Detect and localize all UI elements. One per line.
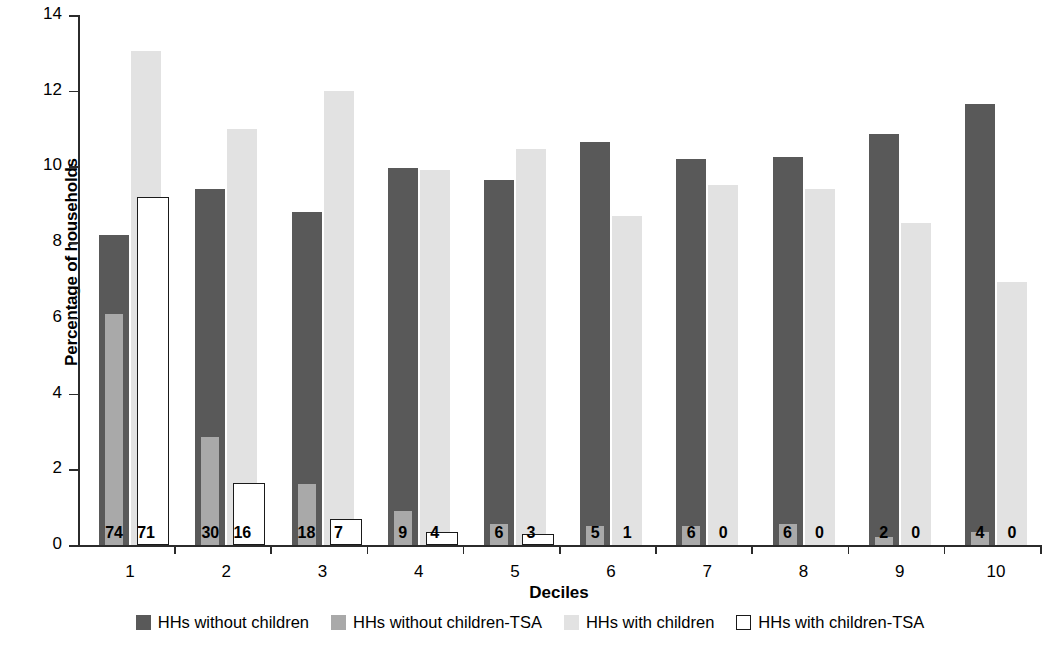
x-tick	[655, 545, 657, 554]
legend-label: HHs with children-TSA	[758, 613, 924, 632]
x-tick	[1040, 545, 1042, 554]
legend-label: HHs with children	[586, 613, 714, 632]
x-tick-label: 5	[485, 562, 545, 582]
bar-value-label-with-children-tsa: 0	[1003, 525, 1021, 541]
x-tick-label: 1	[100, 562, 160, 582]
bar-value-label-without-children-tsa: 6	[682, 525, 700, 541]
legend-swatch-icon	[564, 615, 579, 630]
bar-hhs-without-children	[580, 142, 610, 545]
bar-value-label-without-children-tsa: 30	[201, 525, 219, 541]
y-tick-label: 10	[43, 155, 62, 175]
bar-value-label-with-children-tsa: 1	[618, 525, 636, 541]
bar-hhs-without-children	[388, 168, 418, 545]
y-tick-label: 2	[53, 458, 62, 478]
bar-hhs-with-children	[805, 189, 835, 545]
y-tick-label: 6	[53, 307, 62, 327]
x-tick-label: 2	[196, 562, 256, 582]
x-tick	[174, 545, 176, 554]
plot-area: 02468101214 12345678910 7471301618794635…	[78, 15, 1040, 545]
bar-value-label-without-children-tsa: 2	[875, 525, 893, 541]
y-tick: 8	[69, 242, 78, 244]
chart-page: Percentage of households 02468101214 123…	[0, 0, 1060, 649]
bar-hhs-with-children	[324, 91, 354, 545]
bar-value-label-with-children-tsa: 3	[522, 525, 540, 541]
legend-swatch-icon	[331, 615, 346, 630]
bar-value-label-without-children-tsa: 6	[779, 525, 797, 541]
bar-hhs-without-children	[676, 159, 706, 545]
legend-item[interactable]: HHs without children	[136, 613, 309, 632]
y-tick: 2	[69, 469, 78, 471]
bar-value-label-without-children-tsa: 9	[394, 525, 412, 541]
y-tick-label: 0	[53, 534, 62, 554]
bar-value-label-with-children-tsa: 0	[811, 525, 829, 541]
y-tick: 10	[69, 166, 78, 168]
legend-item[interactable]: HHs with children	[564, 613, 714, 632]
x-tick-label: 7	[677, 562, 737, 582]
x-tick	[270, 545, 272, 554]
bar-hhs-with-children	[901, 223, 931, 545]
y-tick: 4	[69, 394, 78, 396]
bar-value-label-with-children-tsa: 7	[330, 525, 348, 541]
x-tick	[367, 545, 369, 554]
bar-value-label-with-children-tsa: 71	[137, 525, 155, 541]
bar-hhs-without-children	[773, 157, 803, 545]
legend-label: HHs without children	[158, 613, 309, 632]
y-tick-label: 14	[43, 4, 62, 24]
bar-hhs-with-children	[708, 185, 738, 545]
bar-value-label-without-children-tsa: 18	[298, 525, 316, 541]
bar-hhs-without-children-tsa	[105, 314, 123, 545]
x-axis-title: Deciles	[78, 583, 1040, 603]
legend-swatch-icon	[736, 615, 751, 630]
bar-hhs-with-children	[516, 149, 546, 545]
y-tick-label: 4	[53, 383, 62, 403]
bar-hhs-without-children	[484, 180, 514, 545]
x-tick	[559, 545, 561, 554]
y-tick: 6	[69, 318, 78, 320]
bar-value-label-without-children-tsa: 74	[105, 525, 123, 541]
y-tick: 12	[69, 91, 78, 93]
x-tick-label: 6	[581, 562, 641, 582]
y-tick-label: 12	[43, 80, 62, 100]
legend-label: HHs without children-TSA	[353, 613, 542, 632]
bar-value-label-with-children-tsa: 16	[233, 525, 251, 541]
chart-legend: HHs without childrenHHs without children…	[0, 613, 1060, 632]
bar-hhs-with-children	[612, 216, 642, 545]
x-tick-label: 10	[966, 562, 1026, 582]
x-tick-label: 8	[774, 562, 834, 582]
bar-value-label-with-children-tsa: 0	[714, 525, 732, 541]
bar-value-label-with-children-tsa: 4	[426, 525, 444, 541]
legend-item[interactable]: HHs without children-TSA	[331, 613, 542, 632]
x-tick-label: 9	[870, 562, 930, 582]
bar-value-label-without-children-tsa: 4	[971, 525, 989, 541]
bar-hhs-with-children	[420, 170, 450, 545]
x-tick	[463, 545, 465, 554]
x-tick	[944, 545, 946, 554]
bar-value-label-without-children-tsa: 5	[586, 525, 604, 541]
legend-swatch-icon	[136, 615, 151, 630]
legend-item[interactable]: HHs with children-TSA	[736, 613, 924, 632]
y-tick: 0	[69, 545, 78, 547]
bar-hhs-without-children	[869, 134, 899, 545]
x-tick-label: 3	[293, 562, 353, 582]
bar-hhs-with-children-tsa	[137, 197, 169, 545]
y-tick: 14	[69, 15, 78, 17]
x-tick-label: 4	[389, 562, 449, 582]
bar-hhs-with-children	[997, 282, 1027, 545]
y-tick-label: 8	[53, 231, 62, 251]
bar-hhs-without-children	[965, 104, 995, 545]
bar-value-label-with-children-tsa: 0	[907, 525, 925, 541]
x-tick	[848, 545, 850, 554]
bar-value-label-without-children-tsa: 6	[490, 525, 508, 541]
x-tick	[751, 545, 753, 554]
